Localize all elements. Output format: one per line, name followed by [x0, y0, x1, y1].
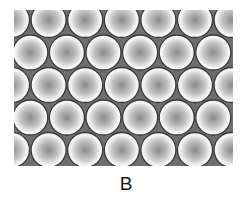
sphere — [49, 35, 84, 70]
sphere — [159, 35, 194, 70]
sphere — [68, 68, 103, 103]
sphere — [141, 68, 176, 103]
sphere — [104, 10, 139, 38]
sphere — [49, 100, 84, 135]
sphere — [86, 35, 121, 70]
sphere — [68, 133, 103, 167]
sphere — [14, 35, 48, 70]
sphere — [86, 100, 121, 135]
sphere — [196, 100, 231, 135]
sphere — [159, 100, 194, 135]
sphere — [178, 68, 213, 103]
sphere — [178, 133, 213, 167]
spheres — [14, 10, 233, 166]
sphere — [31, 133, 66, 167]
sphere — [14, 100, 48, 135]
sphere — [68, 10, 103, 38]
sphere — [196, 35, 231, 70]
figure: B — [0, 0, 252, 199]
sphere — [104, 133, 139, 167]
sphere — [123, 35, 158, 70]
sphere — [178, 10, 213, 38]
sphere — [31, 10, 66, 38]
sphere-array — [14, 10, 233, 166]
sphere — [123, 100, 158, 135]
sphere-packing-diagram — [14, 10, 233, 166]
figure-label: B — [0, 174, 252, 194]
sphere — [31, 68, 66, 103]
sphere — [141, 133, 176, 167]
sphere — [141, 10, 176, 38]
sphere — [104, 68, 139, 103]
